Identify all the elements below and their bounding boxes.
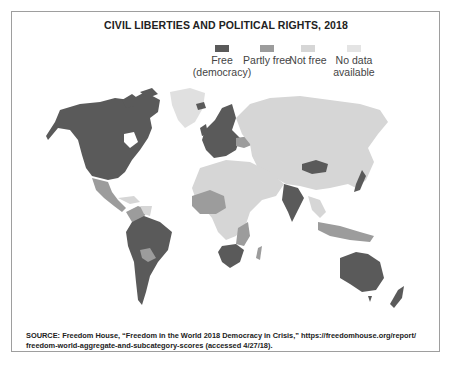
legend-label: Not free — [282, 54, 334, 66]
map-title: CIVIL LIBERTIES AND POLITICAL RIGHTS, 20… — [0, 19, 452, 31]
source-line-1: SOURCE: Freedom House, “Freedom in the W… — [26, 331, 436, 341]
region-australia — [340, 252, 384, 292]
source-note: SOURCE: Freedom House, “Freedom in the W… — [26, 331, 436, 350]
source-line-2: freedom-world-aggregate-and-subcategory-… — [26, 341, 436, 351]
legend-label: No data — [330, 54, 378, 66]
legend-swatch-not-free — [301, 45, 315, 52]
legend: Free (democracy) Partly free Not free No… — [0, 45, 452, 85]
legend-swatch-no-data — [347, 45, 361, 52]
region-north-america — [46, 92, 160, 180]
region-mexico — [92, 178, 126, 212]
legend-item-no-data: No data available — [330, 45, 378, 78]
region-europe — [202, 104, 240, 158]
legend-label-sub: (democracy) — [186, 66, 258, 78]
region-india — [282, 184, 304, 222]
legend-item-not-free: Not free — [282, 45, 334, 66]
legend-label-sub: available — [330, 66, 378, 78]
legend-swatch-partly-free — [260, 45, 274, 52]
region-new-zealand — [390, 286, 404, 308]
world-map — [12, 80, 440, 320]
legend-swatch-free — [215, 45, 229, 52]
region-southern-africa — [218, 244, 244, 268]
